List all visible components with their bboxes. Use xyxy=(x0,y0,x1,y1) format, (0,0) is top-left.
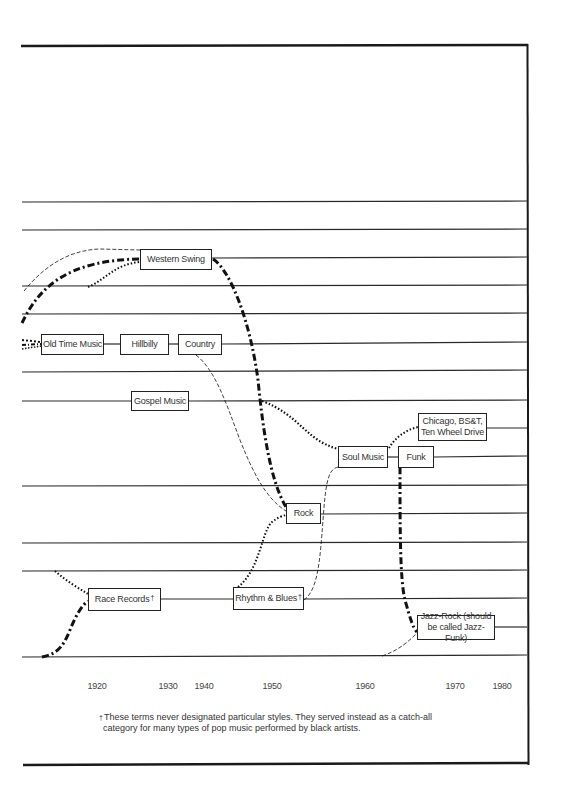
style-box-soul-music: Soul Music xyxy=(338,446,388,468)
style-label: Western Swing xyxy=(147,254,205,265)
style-label-line2: Ten Wheel Drive xyxy=(421,427,484,438)
footnote: †These terms never designated particular… xyxy=(99,712,479,734)
style-label: Hillbilly xyxy=(131,339,157,350)
year-label-1950: 1950 xyxy=(263,681,282,691)
style-label: Soul Music xyxy=(342,452,384,463)
style-box-race-records: Race Records† xyxy=(88,588,161,611)
year-label-1940: 1940 xyxy=(195,681,214,691)
style-label: Gospel Music xyxy=(134,396,186,407)
style-box-gospel-music: Gospel Music xyxy=(131,391,189,411)
footnote-line1: †These terms never designated particular… xyxy=(99,712,479,723)
style-box-rhythm-and-blues: Rhythm & Blues† xyxy=(233,587,304,610)
year-label-1980: 1980 xyxy=(493,681,512,691)
footnote-text-1: These terms never designated particular … xyxy=(104,712,432,722)
year-label-1960: 1960 xyxy=(356,681,375,691)
style-label: Funk xyxy=(406,452,425,463)
style-box-funk: Funk xyxy=(398,446,434,468)
style-box-western-swing: Western Swing xyxy=(140,249,212,270)
dagger-mark: † xyxy=(298,591,302,602)
footnote-text-2: category for many types of pop music per… xyxy=(103,723,361,733)
style-box-old-time-music: Old Time Music xyxy=(41,334,104,355)
style-box-country: Country xyxy=(178,334,222,355)
dagger-mark: † xyxy=(99,714,103,721)
style-label: Rock xyxy=(294,508,314,519)
style-label-line1: Jazz-Rock (should xyxy=(421,611,492,622)
style-box-chicago-bst-ten-wheel-drive: Chicago, BS&T, Ten Wheel Drive xyxy=(418,413,487,441)
style-label-line2: be called Jazz-Funk) xyxy=(418,622,494,644)
style-label: Old Time Music xyxy=(43,339,102,350)
style-box-hillbilly: Hillbilly xyxy=(120,334,169,355)
style-label: Rhythm & Blues xyxy=(235,593,297,604)
footnote-line2: category for many types of pop music per… xyxy=(99,723,479,734)
style-label: Race Records xyxy=(95,594,150,605)
style-box-jazz-rock: Jazz-Rock (should be called Jazz-Funk) xyxy=(417,615,495,640)
year-label-1920: 1920 xyxy=(88,681,107,691)
style-label-line1: Chicago, BS&T, xyxy=(422,416,482,427)
style-box-rock: Rock xyxy=(286,503,321,524)
year-label-1970: 1970 xyxy=(446,681,465,691)
music-genealogy-diagram xyxy=(0,0,561,796)
style-label: Country xyxy=(185,339,215,350)
year-label-1930: 1930 xyxy=(159,681,178,691)
dagger-mark: † xyxy=(150,592,154,603)
